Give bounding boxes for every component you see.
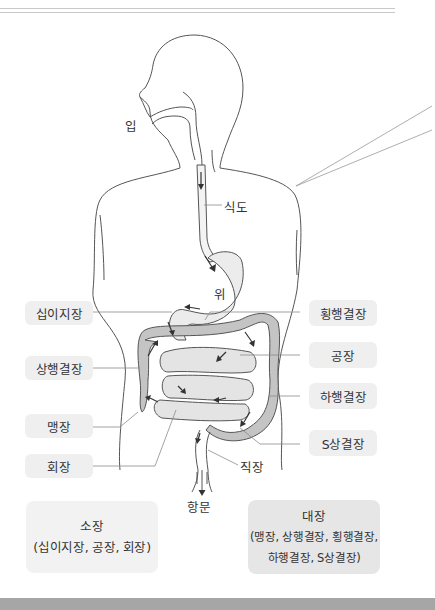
tag-ileum: 회장 <box>25 454 93 478</box>
small-intestine-title: 소장 <box>26 516 158 537</box>
tag-jejunum: 공장 <box>309 342 377 368</box>
tag-duodenum: 십이지장 <box>25 301 93 325</box>
small-intestine-shape <box>154 347 256 420</box>
anus-arrow <box>197 470 207 496</box>
small-intestine-members: (십이지장, 공장, 회장) <box>26 537 158 558</box>
tag-transverse-colon: 횡행결장 <box>309 300 377 326</box>
large-intestine-title: 대장 <box>248 506 380 527</box>
tag-cecum: 맹장 <box>25 414 93 438</box>
tag-descending-colon: 하행결장 <box>309 383 377 409</box>
stomach-label: 위 <box>214 284 226 303</box>
esophagus-label: 식도 <box>224 197 247 216</box>
tag-sigmoid-colon: S상결장 <box>309 430 377 456</box>
callout-lines <box>296 106 432 186</box>
esophagus-shape <box>197 165 218 262</box>
large-intestine-group: 대장 (맹장, 상행결장, 횡행결장, 하행결장, S상결장) <box>248 500 380 574</box>
rectum-label: 직장 <box>240 457 263 476</box>
large-intestine-members-line1: (맹장, 상행결장, 횡행결장, <box>248 527 380 548</box>
tag-ascending-colon: 상행결장 <box>25 356 93 380</box>
large-intestine-members-line2: 하행결장, S상결장) <box>248 548 380 569</box>
anus-label: 항문 <box>187 497 210 516</box>
small-intestine-group: 소장 (십이지장, 공장, 회장) <box>26 501 158 573</box>
mouth-label: 입 <box>125 116 137 135</box>
bottom-bar <box>0 598 435 610</box>
